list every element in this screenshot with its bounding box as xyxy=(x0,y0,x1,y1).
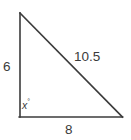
angle-label-x-degrees: x° xyxy=(22,98,30,110)
geometry-figure: 6 10.5 8 x° xyxy=(0,0,131,140)
degree-symbol-icon: ° xyxy=(27,98,30,105)
triangle-side-hypotenuse xyxy=(20,13,123,117)
triangle-drawing xyxy=(0,0,131,140)
side-label-horizontal-leg: 8 xyxy=(65,123,73,137)
side-label-vertical-leg: 6 xyxy=(3,60,11,74)
side-label-hypotenuse: 10.5 xyxy=(74,50,100,64)
